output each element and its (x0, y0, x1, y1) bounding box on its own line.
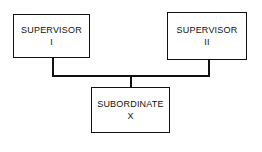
subordinate-label: X (127, 110, 133, 122)
supervisor-2-title: SUPERVISOR (177, 24, 238, 36)
connector-sup1-down (52, 58, 54, 76)
supervisor-2-box: SUPERVISOR II (167, 12, 247, 60)
supervisor-1-box: SUPERVISOR I (13, 14, 90, 58)
connector-sup2-down (208, 60, 210, 76)
subordinate-box: SUBORDINATE X (91, 87, 170, 133)
supervisor-1-number: I (50, 36, 53, 48)
subordinate-title: SUBORDINATE (97, 98, 164, 110)
supervisor-2-number: II (204, 36, 209, 48)
connector-to-subordinate (130, 75, 132, 87)
supervisor-1-title: SUPERVISOR (21, 24, 82, 36)
